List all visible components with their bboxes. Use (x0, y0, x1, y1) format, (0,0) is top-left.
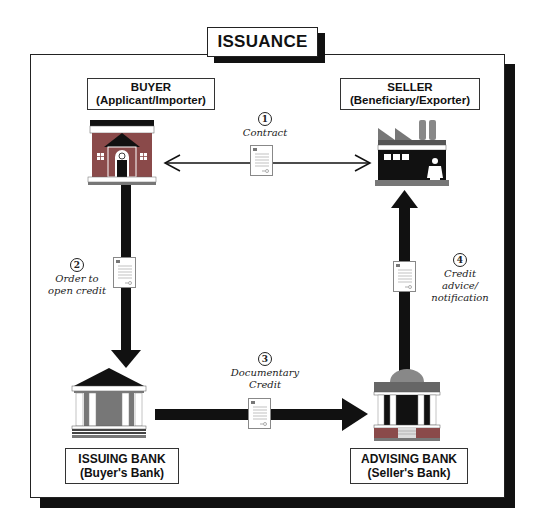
credit-document-icon (248, 398, 272, 430)
step-4-label: 4 Credit advice/ notification (425, 253, 495, 304)
step-1-number: 1 (258, 112, 272, 126)
domed-bank-icon (370, 370, 480, 455)
step-2-number: 2 (70, 258, 84, 272)
house-with-person-icon (88, 120, 188, 200)
factory-with-worker-icon (375, 118, 475, 198)
step-4-number: 4 (453, 253, 467, 267)
step-1-label: 1 Contract (230, 112, 300, 139)
order-document-icon (113, 257, 137, 289)
advice-document-icon (393, 261, 417, 293)
bank-building-icon (66, 366, 176, 446)
step-3-number: 3 (258, 352, 272, 366)
step-2-label: 2 Order to open credit (42, 258, 112, 297)
contract-document-icon (250, 145, 274, 177)
step-3-label: 3 Documentary Credit (225, 352, 305, 391)
